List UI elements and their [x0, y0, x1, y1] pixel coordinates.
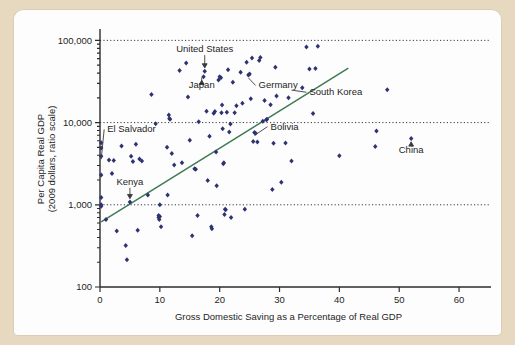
data-point — [165, 192, 169, 197]
data-point — [107, 158, 111, 163]
annotation-down-arrow-head — [128, 194, 133, 198]
data-point — [129, 154, 133, 159]
data-point — [337, 153, 341, 158]
data-point — [184, 61, 188, 66]
data-point — [311, 111, 315, 116]
annotation-label-bolivia: Bolivia — [271, 121, 300, 132]
data-point — [289, 159, 293, 164]
data-point — [270, 187, 274, 192]
data-point — [149, 92, 153, 97]
data-point — [180, 160, 184, 165]
data-point — [229, 215, 233, 220]
y-tick-label: 100 — [76, 281, 92, 292]
data-point — [244, 60, 248, 65]
chart-figure-panel: 1001,00010,000100,0000102030405060 Unite… — [14, 10, 501, 335]
data-point — [159, 224, 163, 229]
data-point — [234, 103, 238, 108]
data-point — [409, 136, 413, 141]
x-tick-label: 60 — [454, 294, 465, 305]
data-point — [115, 228, 119, 233]
data-point — [273, 65, 277, 70]
data-point — [125, 257, 129, 262]
data-point — [283, 140, 287, 145]
data-point — [307, 66, 311, 71]
x-tick-label: 30 — [274, 294, 285, 305]
data-point — [186, 94, 190, 99]
data-point — [313, 66, 317, 71]
data-points-group — [99, 44, 413, 263]
data-point — [251, 139, 255, 144]
annotation-label-germany: Germany — [259, 79, 298, 90]
data-point — [165, 145, 169, 150]
data-point — [203, 69, 207, 74]
data-point — [274, 94, 278, 99]
data-point — [124, 243, 128, 248]
data-point — [220, 102, 224, 107]
x-tick-label: 40 — [334, 294, 345, 305]
data-point — [206, 178, 210, 183]
data-point — [197, 119, 201, 124]
data-point — [204, 109, 208, 114]
data-point — [228, 122, 232, 127]
data-point — [304, 45, 308, 50]
data-point — [238, 70, 242, 75]
data-point — [225, 110, 229, 115]
data-point — [385, 87, 389, 92]
data-point — [222, 212, 226, 217]
annotation-leader-line — [248, 78, 255, 86]
data-point — [170, 151, 174, 156]
y-axis-title-line1: Per Capita Real GDP — [35, 114, 46, 204]
axes-group — [100, 29, 491, 287]
data-point — [226, 67, 230, 72]
data-point — [131, 159, 135, 164]
data-point — [220, 126, 224, 131]
data-point — [158, 202, 162, 207]
data-point — [268, 102, 272, 107]
data-point — [112, 158, 116, 163]
data-point — [195, 213, 199, 218]
data-point — [110, 171, 114, 176]
y-axis-title-line2: (2009 dollars, ratio scale) — [46, 106, 57, 213]
data-point — [172, 162, 176, 167]
data-point — [374, 128, 378, 133]
data-point — [373, 144, 377, 149]
annotation-label-united-states: United States — [176, 43, 233, 54]
annotation-label-japan: Japan — [189, 79, 215, 90]
data-point — [300, 85, 304, 90]
data-point — [279, 180, 283, 185]
data-point — [119, 143, 123, 148]
annotation-label-el-salvador: El Salvador — [107, 123, 156, 134]
data-point — [214, 183, 218, 188]
data-point — [286, 95, 290, 100]
data-point — [219, 110, 223, 115]
x-tick-label: 50 — [394, 294, 405, 305]
x-tick-label: 20 — [214, 294, 225, 305]
data-point — [316, 44, 320, 49]
data-point — [134, 142, 138, 147]
annotation-label-kenya: Kenya — [116, 176, 144, 187]
data-point — [240, 101, 244, 106]
data-point — [190, 233, 194, 238]
data-point — [231, 80, 235, 85]
data-point — [271, 141, 275, 146]
y-tick-label: 1,000 — [68, 199, 92, 210]
x-tick-label: 0 — [97, 294, 102, 305]
data-point — [262, 98, 266, 103]
annotation-label-china: China — [399, 144, 425, 155]
y-tick-label: 100,000 — [58, 35, 92, 46]
data-point — [167, 112, 171, 117]
x-axis-title: Gross Domestic Saving as a Percentage of… — [175, 311, 402, 322]
data-point — [136, 228, 140, 233]
annotation-leader-line — [291, 90, 306, 92]
annotation-label-south-korea: South Korea — [309, 86, 363, 97]
data-point — [207, 134, 211, 139]
annotation-down-arrow-head — [202, 64, 207, 68]
data-point — [243, 207, 247, 212]
data-point — [227, 129, 231, 134]
annotation-leader-line — [254, 127, 267, 136]
y-tick-label: 10,000 — [63, 117, 92, 128]
data-point — [232, 110, 236, 115]
data-point — [250, 56, 254, 61]
axis-ticks-group: 1001,00010,000100,0000102030405060 — [58, 35, 465, 305]
data-point — [188, 138, 192, 143]
